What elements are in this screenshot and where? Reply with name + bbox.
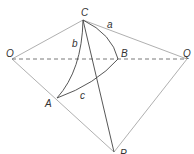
edge-qp (114, 59, 187, 152)
label-b-side: b (72, 38, 78, 49)
label-o: O (6, 48, 14, 59)
label-c: C (81, 7, 89, 18)
spherical-triangle-diagram: C a b O B Q c A P (0, 0, 194, 154)
label-b: B (121, 48, 128, 59)
edge-op (12, 59, 114, 152)
arc-a-cb (83, 20, 118, 59)
label-q: Q (183, 48, 191, 59)
label-a-side: a (107, 19, 113, 30)
edge-cq (83, 20, 187, 59)
label-c-side: c (80, 90, 85, 101)
arc-c-ab (57, 59, 118, 98)
label-a: A (44, 98, 52, 109)
label-p: P (120, 148, 127, 154)
